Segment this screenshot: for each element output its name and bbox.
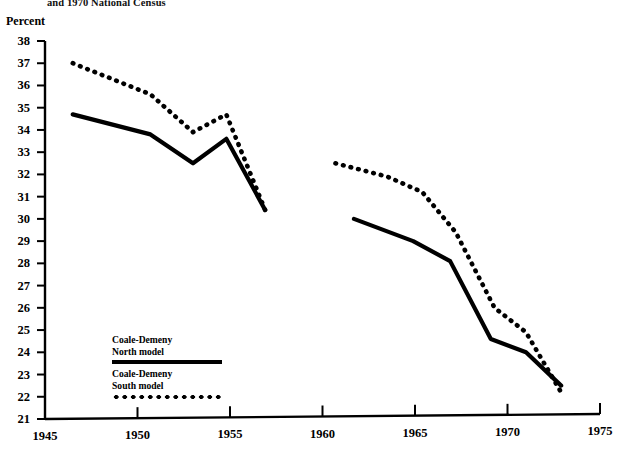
y-axis-tick-label: 28 bbox=[4, 256, 30, 271]
legend-swatch-dotted bbox=[112, 395, 222, 399]
y-axis-tick-label: 34 bbox=[4, 122, 30, 137]
x-axis-tick-label: 1945 bbox=[23, 429, 67, 444]
y-axis-tick-label: 38 bbox=[4, 34, 30, 49]
chart-series-south bbox=[73, 63, 265, 210]
x-axis-tick-label: 1975 bbox=[578, 424, 622, 439]
chart-series-north bbox=[354, 219, 561, 386]
y-axis-tick-label: 22 bbox=[4, 389, 30, 404]
legend-label-line2: South model bbox=[112, 380, 234, 392]
chart-plot-area bbox=[0, 0, 625, 465]
y-axis-tick-label: 26 bbox=[4, 300, 30, 315]
y-axis-tick-label: 29 bbox=[4, 234, 30, 249]
y-axis-tick-label: 24 bbox=[4, 345, 30, 360]
x-axis-tick-label: 1965 bbox=[393, 426, 437, 441]
y-axis-tick-label: 23 bbox=[4, 367, 30, 382]
y-axis-tick-label: 32 bbox=[4, 167, 30, 182]
y-axis-tick-label: 25 bbox=[4, 323, 30, 338]
x-axis-tick-label: 1970 bbox=[486, 425, 530, 440]
chart-series-north bbox=[73, 114, 265, 210]
y-axis-tick-label: 27 bbox=[4, 278, 30, 293]
chart-legend: Coale-DemenyNorth modelCoale-DemenySouth… bbox=[112, 334, 234, 403]
x-axis-tick-label: 1960 bbox=[301, 427, 345, 442]
y-axis-tick-label: 31 bbox=[4, 189, 30, 204]
legend-label-line1: Coale-Demeny bbox=[112, 334, 234, 346]
y-axis-tick-label: 35 bbox=[4, 100, 30, 115]
legend-entry: Coale-DemenyNorth model bbox=[112, 334, 234, 364]
legend-label-line2: North model bbox=[112, 346, 234, 358]
y-axis-tick-label: 37 bbox=[4, 56, 30, 71]
x-axis-tick-label: 1950 bbox=[116, 428, 160, 443]
y-axis-tick-label: 30 bbox=[4, 211, 30, 226]
y-axis-tick-label: 36 bbox=[4, 78, 30, 93]
legend-swatch-solid bbox=[112, 360, 222, 364]
x-axis-tick-label: 1955 bbox=[208, 427, 252, 442]
y-axis-tick-label: 33 bbox=[4, 145, 30, 160]
legend-label-line1: Coale-Demeny bbox=[112, 368, 234, 380]
y-axis-tick-label: 21 bbox=[4, 412, 30, 427]
chart-series-south bbox=[335, 163, 561, 392]
legend-entry: Coale-DemenySouth model bbox=[112, 368, 234, 399]
